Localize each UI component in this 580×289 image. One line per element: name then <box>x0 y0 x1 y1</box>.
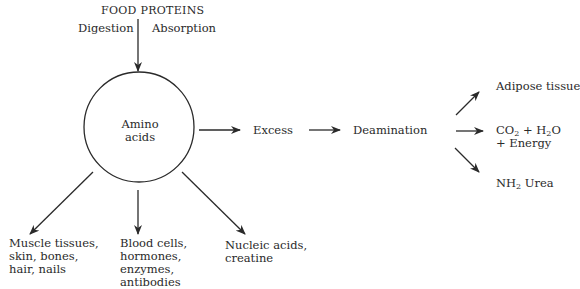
amino-acids-label: Amino acids <box>114 118 166 144</box>
arrow-amino-to-muscle <box>30 172 93 234</box>
absorption-label: Absorption <box>152 22 216 35</box>
co2-h2o-energy-label: CO2 + H2O + Energy <box>496 124 561 150</box>
arrow-to-urea <box>455 148 479 172</box>
food-proteins-label: FOOD PROTEINS <box>101 4 204 17</box>
arrow-amino-to-nucleic <box>182 172 245 234</box>
muscle-tissues-label: Muscle tissues, skin, bones, hair, nails <box>9 237 99 276</box>
nh2-urea-label: NH2 Urea <box>496 177 554 190</box>
muscle-line-3: hair, nails <box>9 263 99 276</box>
nucleic-acids-label: Nucleic acids, creatine <box>225 239 307 265</box>
nucleic-line-2: creatine <box>225 252 307 265</box>
amino-acids-line2: acids <box>114 131 166 144</box>
digestion-label: Digestion <box>78 22 134 35</box>
blood-line-4: antibodies <box>120 276 187 289</box>
arrow-to-adipose <box>456 92 479 115</box>
blood-cells-label: Blood cells, hormones, enzymes, antibodi… <box>120 237 187 289</box>
deamination-label: Deamination <box>353 124 427 137</box>
adipose-tissue-label: Adipose tissue <box>496 80 580 93</box>
excess-label: Excess <box>253 124 293 137</box>
energy-line: + Energy <box>496 137 561 150</box>
